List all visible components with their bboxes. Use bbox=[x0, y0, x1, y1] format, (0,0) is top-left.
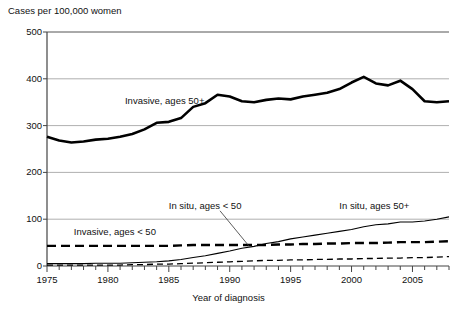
x-tick-label: 2000 bbox=[335, 274, 369, 285]
x-tick-label: 1985 bbox=[152, 274, 186, 285]
y-tick-label: 300 bbox=[6, 120, 42, 131]
annotation-leader-line bbox=[220, 211, 249, 247]
y-tick-label: 0 bbox=[6, 260, 42, 271]
x-tick-label: 1980 bbox=[91, 274, 125, 285]
series-label-invasive-ages-50: Invasive, ages < 50 bbox=[74, 226, 156, 237]
x-tick-label: 1995 bbox=[274, 274, 308, 285]
series-line bbox=[47, 217, 449, 264]
chart-container: Cases per 100,000 women Year of diagnosi… bbox=[0, 0, 457, 311]
x-axis-title: Year of diagnosis bbox=[0, 292, 457, 303]
y-tick-label: 200 bbox=[6, 166, 42, 177]
x-tick-label: 2005 bbox=[395, 274, 429, 285]
y-tick-label: 500 bbox=[6, 26, 42, 37]
chart-plot-area bbox=[0, 0, 457, 311]
y-tick-label: 100 bbox=[6, 213, 42, 224]
series-line bbox=[47, 257, 449, 265]
series-line bbox=[47, 77, 449, 143]
y-tick-label: 400 bbox=[6, 73, 42, 84]
series-label-in-situ-ages-50: In situ, ages < 50 bbox=[169, 200, 242, 211]
x-tick-label: 1975 bbox=[30, 274, 64, 285]
x-tick-label: 1990 bbox=[213, 274, 247, 285]
series-label-in-situ-ages-50: In situ, ages 50+ bbox=[339, 200, 409, 211]
series-label-invasive-ages-50: Invasive, ages 50+ bbox=[125, 95, 204, 106]
